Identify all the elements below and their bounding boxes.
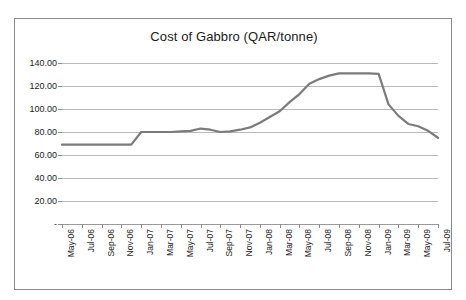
x-axis-tick <box>319 224 320 228</box>
chart-title: Cost of Gabbro (QAR/tonne) <box>15 29 453 44</box>
x-axis-label: May-07 <box>185 229 195 257</box>
x-axis-label: Jul-09 <box>442 229 452 252</box>
x-axis-tick <box>102 224 103 228</box>
y-axis-label: 20.00 <box>34 196 57 206</box>
x-axis-tick <box>220 224 221 228</box>
x-axis-tick <box>260 224 261 228</box>
x-axis-tick <box>339 224 340 228</box>
y-axis-label: 40.00 <box>34 173 57 183</box>
y-axis-label: 80.00 <box>34 127 57 137</box>
x-axis-tick <box>280 224 281 228</box>
x-axis-label: Jan-07 <box>145 229 155 255</box>
x-axis-label: May-06 <box>66 229 76 257</box>
x-axis-label: Mar-09 <box>402 229 412 256</box>
x-axis-label: Nov-07 <box>244 229 254 256</box>
x-axis-label: Jan-08 <box>264 229 274 255</box>
x-axis-tick <box>121 224 122 228</box>
plot-area <box>62 63 438 224</box>
x-axis-tick <box>161 224 162 228</box>
x-axis-label: May-08 <box>303 229 313 257</box>
y-axis-label: 120.00 <box>29 81 57 91</box>
x-axis-tick <box>240 224 241 228</box>
x-axis-label: Jan-09 <box>383 229 393 255</box>
x-axis-tick <box>418 224 419 228</box>
x-axis-tick <box>299 224 300 228</box>
x-axis-tick <box>62 224 63 228</box>
y-axis-label: 60.00 <box>34 150 57 160</box>
chart-frame: Cost of Gabbro (QAR/tonne) -20.0040.0060… <box>14 18 452 290</box>
x-axis-tick <box>181 224 182 228</box>
y-axis-label: - <box>54 219 57 229</box>
x-axis-label: Mar-08 <box>284 229 294 256</box>
x-axis-label: Sep-08 <box>343 229 353 256</box>
x-axis-tick <box>438 224 439 228</box>
x-axis-tick <box>379 224 380 228</box>
y-axis-labels: -20.0040.0060.0080.00100.00120.00140.00 <box>15 63 57 224</box>
y-axis-label: 100.00 <box>29 104 57 114</box>
x-axis-label: Jul-06 <box>86 229 96 252</box>
x-axis-tick <box>201 224 202 228</box>
y-axis-label: 140.00 <box>29 58 57 68</box>
x-axis-labels: May-06Jul-06Sep-06Nov-06Jan-07Mar-07May-… <box>62 229 438 289</box>
x-axis-label: Nov-08 <box>363 229 373 256</box>
x-axis-label: Sep-07 <box>224 229 234 256</box>
x-axis-tick <box>82 224 83 228</box>
x-axis-label: Jul-08 <box>323 229 333 252</box>
x-axis-label: Sep-06 <box>106 229 116 256</box>
x-axis-label: Nov-06 <box>125 229 135 256</box>
series-line-cost-of-gabbro <box>62 63 438 224</box>
x-axis-label: May-09 <box>422 229 432 257</box>
x-axis-label: Jul-07 <box>205 229 215 252</box>
x-axis-tick <box>141 224 142 228</box>
x-axis-label: Mar-07 <box>165 229 175 256</box>
x-axis-tick <box>398 224 399 228</box>
x-axis-tick <box>359 224 360 228</box>
